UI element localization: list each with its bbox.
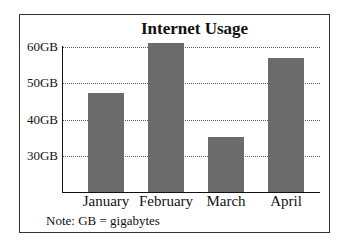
bar-march — [208, 137, 244, 192]
bar-february — [148, 43, 184, 192]
x-label-april: April — [246, 193, 326, 210]
y-axis — [62, 46, 63, 193]
gridline-60 — [63, 47, 320, 48]
chart-frame: Internet Usage 60GB 50GB 40GB 30GB Janua… — [19, 14, 330, 233]
bar-april — [268, 58, 304, 192]
y-tick-60: 60GB — [18, 39, 58, 55]
bar-january — [88, 93, 124, 192]
y-tick-30: 30GB — [18, 148, 58, 164]
y-tick-40: 40GB — [18, 112, 58, 128]
chart-note: Note: GB = gigabytes — [46, 213, 160, 229]
chart-title: Internet Usage — [40, 19, 347, 39]
y-tick-50: 50GB — [18, 75, 58, 91]
